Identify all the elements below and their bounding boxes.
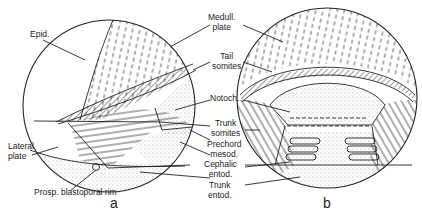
label-tail-somites: Tailsomites: [212, 52, 241, 71]
panel-label-b: b: [323, 195, 331, 211]
panel-b-regions: [237, 0, 417, 200]
label-line: entod.: [208, 191, 232, 201]
label-epidermis: Epid.: [30, 30, 49, 40]
label-trunk-somites: Trunksomites: [211, 119, 240, 138]
label-line: mesod.: [207, 150, 242, 160]
label-line: plate: [208, 23, 235, 33]
label-prechordal-mesoderm: Prechordmesod.: [207, 140, 242, 159]
label-lateral-plate: Lateralplate: [8, 142, 34, 161]
label-cephalic-entoderm: Cephalicentod.: [204, 160, 237, 179]
panel-label-a: a: [110, 195, 118, 211]
label-line: entod.: [204, 170, 237, 180]
label-blastoporal-rim: Prosp. blastoporal rim: [34, 188, 117, 198]
label-line: somites: [212, 62, 241, 72]
label-medullary-plate: Medull.plate: [208, 13, 235, 32]
fate-map-figure: Epid. Medull.plate Tailsomites Notoch. T…: [0, 0, 422, 213]
label-line: somites: [211, 129, 240, 139]
label-trunk-entoderm: Trunkentod.: [208, 181, 232, 200]
label-line: plate: [8, 152, 34, 162]
label-notochord: Notoch.: [210, 94, 239, 104]
